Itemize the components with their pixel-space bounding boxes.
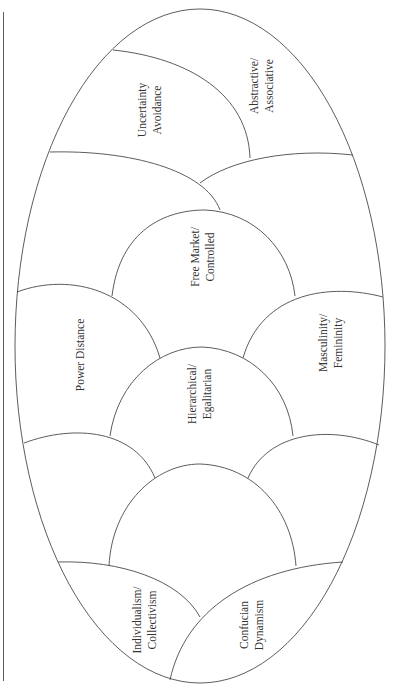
- power-distance-lower-boundary: [24, 433, 155, 478]
- svg-text:Uncertainty: Uncertainty: [136, 83, 149, 138]
- masculinity-lower-boundary: [248, 434, 379, 478]
- svg-text:Masculinity/: Masculinity/: [317, 313, 330, 372]
- individualism-upper-boundary: [58, 562, 200, 617]
- svg-text:Controlled: Controlled: [204, 232, 216, 281]
- power-distance-upper-boundary: [17, 284, 160, 358]
- svg-text:Femininity: Femininity: [332, 318, 345, 369]
- svg-text:Abstractive/: Abstractive/: [248, 57, 260, 114]
- label-power-distance: Power Distance: [74, 319, 86, 392]
- masculinity-upper-boundary: [243, 291, 383, 358]
- label-individualism-collectivism: Individualism/ Collectivism: [131, 586, 158, 654]
- svg-text:Power Distance: Power Distance: [74, 319, 86, 392]
- svg-text:Associative: Associative: [263, 59, 275, 113]
- abstractive-lower-boundary: [200, 153, 353, 183]
- cultural-dimensions-diagram: Uncertainty Avoidance Abstractive/ Assoc…: [0, 0, 395, 700]
- label-hierarchical-egalitarian: Hierarchical/ Egalitarian: [186, 363, 214, 424]
- outer-ellipse: [15, 9, 385, 683]
- svg-text:Free Market/: Free Market/: [189, 226, 201, 287]
- svg-text:Individualism/: Individualism/: [131, 586, 143, 654]
- label-abstractive-associative: Abstractive/ Associative: [248, 57, 275, 114]
- label-confucian-dynamism: Confucian Dynamism: [238, 600, 266, 651]
- svg-text:Confucian: Confucian: [238, 601, 250, 649]
- svg-text:Hierarchical/: Hierarchical/: [186, 363, 198, 424]
- label-masculinity-femininity: Masculinity/ Femininity: [317, 313, 345, 372]
- label-free-market-controlled: Free Market/ Controlled: [189, 226, 216, 287]
- svg-text:Dynamism: Dynamism: [253, 600, 266, 651]
- svg-text:Egalitarian: Egalitarian: [201, 369, 214, 420]
- uncertainty-boundary: [113, 50, 250, 158]
- label-uncertainty-avoidance: Uncertainty Avoidance: [136, 83, 163, 138]
- uncertainty-lower-boundary: [50, 152, 220, 210]
- bottom-arch: [109, 464, 296, 566]
- svg-text:Avoidance: Avoidance: [151, 86, 163, 135]
- svg-text:Collectivism: Collectivism: [146, 591, 158, 650]
